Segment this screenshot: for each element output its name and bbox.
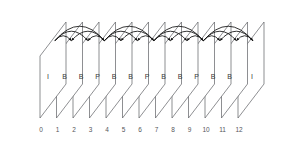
frame-type-label: B	[161, 73, 166, 80]
frame-index-label: 11	[219, 126, 226, 133]
frame-type-label: B	[112, 73, 117, 80]
frame-type-label: B	[178, 73, 183, 80]
frame-index-label: 1	[56, 126, 60, 133]
gop-diagram: IBBPBBPBBPBBI 0123456789101112	[0, 0, 288, 141]
frame-type-label: B	[62, 73, 67, 80]
frame-type-label: B	[128, 73, 133, 80]
frame-index-label: 12	[235, 126, 243, 133]
frame-type-label: B	[211, 73, 216, 80]
frame-index-label: 5	[122, 126, 126, 133]
frame-index-label: 3	[89, 126, 93, 133]
frame-type-label: P	[194, 73, 199, 80]
frame-index-label: 7	[155, 126, 159, 133]
frame-index-label: 4	[105, 126, 109, 133]
frame-type-label: B	[79, 73, 84, 80]
frame-type-label: I	[251, 73, 253, 80]
frame-index-label: 0	[39, 126, 43, 133]
frame-type-label: B	[227, 73, 232, 80]
frame-planes-layer	[40, 22, 264, 118]
frame-type-label: I	[47, 73, 49, 80]
frame-type-label: P	[145, 73, 150, 80]
frame-type-label: P	[95, 73, 100, 80]
frame-index-label: 9	[188, 126, 192, 133]
gop-diagram-canvas: IBBPBBPBBPBBI 0123456789101112	[0, 0, 288, 141]
frame-index-labels-layer: 0123456789101112	[39, 126, 243, 133]
frame-index-label: 8	[171, 126, 175, 133]
frame-index-label: 6	[138, 126, 142, 133]
frame-index-label: 10	[202, 126, 210, 133]
frame-index-label: 2	[72, 126, 76, 133]
